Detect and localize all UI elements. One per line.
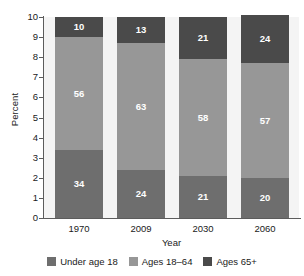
legend-label: Ages 65+ bbox=[216, 256, 256, 267]
bar-segment[interactable]: 57 bbox=[241, 63, 289, 178]
legend-item[interactable]: Ages 18–64 bbox=[129, 256, 193, 267]
bar-segment[interactable]: 24 bbox=[241, 15, 289, 63]
y-tick-label: 7 bbox=[0, 72, 38, 82]
y-tick-label: 6 bbox=[0, 92, 38, 102]
y-tick-label: 0 bbox=[0, 213, 38, 223]
x-tick-label: 2030 bbox=[173, 223, 233, 234]
chart-legend: Under age 18Ages 18–64Ages 65+ bbox=[0, 256, 304, 267]
legend-swatch-icon bbox=[47, 257, 56, 266]
x-tick-label: 2009 bbox=[111, 223, 171, 234]
x-tick-label: 2060 bbox=[235, 223, 295, 234]
bar-segment[interactable]: 21 bbox=[179, 17, 227, 59]
legend-swatch-icon bbox=[129, 257, 138, 266]
bar-group-2030[interactable]: 215821 bbox=[179, 17, 227, 218]
stacked-bar-chart: Percent 109876543210 3456102463132158212… bbox=[0, 0, 304, 276]
bar-group-1970[interactable]: 345610 bbox=[55, 17, 103, 218]
bar-group-2060[interactable]: 205724 bbox=[241, 17, 289, 218]
y-tick-label: 1 bbox=[0, 193, 38, 203]
bar-segment[interactable]: 21 bbox=[179, 176, 227, 218]
bar-segment[interactable]: 13 bbox=[117, 17, 165, 43]
x-axis-line bbox=[43, 218, 301, 219]
bar-segment[interactable]: 10 bbox=[55, 17, 103, 37]
bar-segment[interactable]: 20 bbox=[241, 178, 289, 218]
bar-segment[interactable]: 58 bbox=[179, 59, 227, 176]
legend-label: Under age 18 bbox=[60, 256, 118, 267]
legend-swatch-icon bbox=[203, 257, 212, 266]
y-tick-label: 9 bbox=[0, 32, 38, 42]
bar-segment[interactable]: 63 bbox=[117, 43, 165, 170]
bar-segment[interactable]: 56 bbox=[55, 37, 103, 150]
plot-area: 345610246313215821205724 bbox=[44, 17, 299, 218]
bar-group-2009[interactable]: 246313 bbox=[117, 17, 165, 218]
y-tick-label: 4 bbox=[0, 133, 38, 143]
legend-label: Ages 18–64 bbox=[142, 256, 193, 267]
x-tick-label: 1970 bbox=[49, 223, 109, 234]
y-tick-label: 2 bbox=[0, 173, 38, 183]
y-tick-label: 3 bbox=[0, 153, 38, 163]
y-tick-label: 8 bbox=[0, 52, 38, 62]
legend-item[interactable]: Under age 18 bbox=[47, 256, 118, 267]
legend-item[interactable]: Ages 65+ bbox=[203, 256, 256, 267]
y-tick-label: 5 bbox=[0, 113, 38, 123]
bar-segment[interactable]: 34 bbox=[55, 150, 103, 218]
x-axis-title: Year bbox=[44, 237, 299, 248]
y-tick-label: 10 bbox=[0, 12, 38, 22]
bar-segment[interactable]: 24 bbox=[117, 170, 165, 218]
